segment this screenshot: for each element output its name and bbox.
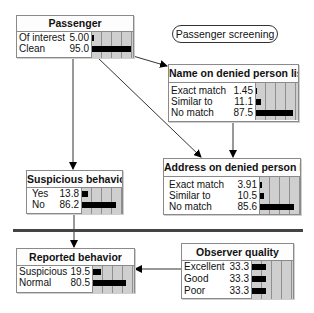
state-value: 95.0 (70, 43, 91, 54)
state-value: 87.5 (234, 107, 255, 118)
state-value: 11.1 (234, 96, 255, 107)
belief-bar (256, 99, 261, 105)
network-title-label: Passenger screening (172, 25, 278, 43)
state-row[interactable]: Poor33.3 (184, 285, 251, 297)
separator-line (13, 229, 303, 232)
belief-bar (92, 35, 94, 41)
state-label: No (32, 199, 45, 210)
node-observer-quality[interactable]: Observer quality Excellent33.3 Good33.3 … (181, 243, 294, 299)
belief-bars (259, 177, 300, 214)
state-value: 10.5 (238, 190, 259, 201)
state-row[interactable]: No86.2 (32, 199, 81, 210)
belief-bar (92, 46, 131, 52)
state-row[interactable]: Of interest5.00 (19, 32, 91, 43)
belief-bars (92, 266, 134, 293)
state-row[interactable]: Exact match1.45 (171, 85, 255, 96)
state-value: 3.91 (238, 179, 259, 190)
node-title: Address on denied person list (164, 159, 300, 177)
state-label: Similar to (169, 190, 211, 201)
state-label: Normal (19, 277, 51, 288)
belief-bar (93, 280, 126, 286)
state-value: 13.8 (60, 188, 81, 199)
state-value: 85.6 (238, 201, 259, 212)
belief-bars (81, 188, 122, 214)
state-label: Clean (19, 43, 45, 54)
belief-bars (91, 32, 133, 58)
belief-bars (255, 83, 298, 120)
state-value: 5.00 (70, 32, 91, 43)
belief-bar (93, 269, 101, 275)
state-row[interactable]: Yes13.8 (32, 188, 81, 199)
belief-bar (252, 276, 266, 282)
state-row[interactable]: Normal80.5 (19, 277, 92, 288)
state-value: 19.5 (71, 266, 92, 277)
state-label: Of interest (19, 32, 65, 43)
state-label: No match (169, 201, 212, 212)
state-value: 1.45 (234, 85, 255, 96)
state-row[interactable]: Clean95.0 (19, 43, 91, 54)
belief-bar (256, 88, 257, 94)
state-label: Yes (32, 188, 48, 199)
belief-bar (256, 110, 293, 116)
node-suspicious-behavior[interactable]: Suspicious behavior Yes13.8 No86.2 (26, 170, 123, 214)
node-passenger[interactable]: Passenger Of interest5.00 Clean95.0 (16, 15, 134, 58)
belief-bar (252, 264, 266, 270)
node-title: Suspicious behavior (27, 171, 122, 188)
edge-passenger-name (133, 56, 167, 66)
belief-bar (252, 288, 266, 294)
state-label: Exact match (171, 85, 226, 96)
node-title: Observer quality (182, 244, 293, 261)
state-label: Excellent (184, 261, 225, 273)
state-row[interactable]: Good33.3 (184, 273, 251, 285)
node-title: Passenger (17, 16, 133, 32)
state-value: 33.3 (230, 285, 251, 297)
node-name-on-denied-list[interactable]: Name on denied person list Exact match1.… (168, 64, 299, 122)
node-title: Reported behavior (17, 249, 134, 266)
belief-bars (251, 261, 293, 299)
belief-bar (82, 191, 88, 197)
state-label: No match (171, 107, 214, 118)
belief-bar (260, 204, 294, 210)
belief-bar (260, 193, 264, 199)
node-reported-behavior[interactable]: Reported behavior Suspicious19.5 Normal8… (16, 248, 135, 293)
node-title: Name on denied person list (169, 65, 298, 83)
state-label: Good (184, 273, 208, 285)
state-row[interactable]: No match85.6 (169, 201, 259, 212)
state-row[interactable]: Suspicious19.5 (19, 266, 92, 277)
state-row[interactable]: Similar to10.5 (169, 190, 259, 201)
node-address-on-denied-list[interactable]: Address on denied person list Exact matc… (163, 158, 301, 215)
state-label: Exact match (169, 179, 224, 190)
belief-bar (260, 182, 262, 188)
state-label: Similar to (171, 96, 213, 107)
state-row[interactable]: Excellent33.3 (184, 261, 251, 273)
state-row[interactable]: No match87.5 (171, 107, 255, 118)
state-value: 33.3 (230, 261, 251, 273)
state-row[interactable]: Exact match3.91 (169, 179, 259, 190)
state-value: 86.2 (60, 199, 81, 210)
belief-bar (82, 202, 116, 208)
state-value: 33.3 (230, 273, 251, 285)
state-label: Poor (184, 285, 205, 297)
state-value: 80.5 (71, 277, 92, 288)
state-row[interactable]: Similar to11.1 (171, 96, 255, 107)
state-label: Suspicious (19, 266, 67, 277)
